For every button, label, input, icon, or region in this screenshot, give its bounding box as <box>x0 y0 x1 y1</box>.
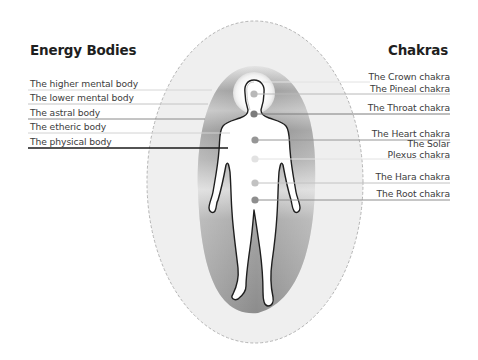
chakra-label: The Throat chakra <box>368 102 450 113</box>
energy-body-label: The higher mental body <box>30 78 138 89</box>
chakra-label: The Root chakra <box>377 188 450 199</box>
chakra-label: The Hara chakra <box>375 171 450 182</box>
chakra-label-line2: Plexus chakra <box>388 149 450 160</box>
energy-bodies-chakras-diagram: Energy Bodies Chakras The higher mental … <box>0 0 478 360</box>
chakra-label: The Pineal chakra <box>370 83 450 94</box>
chakra-label-line1: The Solar <box>407 138 450 149</box>
chakras-heading: Chakras <box>388 42 448 58</box>
energy-body-label: The etheric body <box>30 121 106 132</box>
chakra-dot <box>250 110 257 117</box>
energy-body-label: The astral body <box>30 107 100 118</box>
chakra-dot <box>251 136 258 143</box>
chakra-label: The Crown chakra <box>368 71 450 82</box>
chakra-dot <box>251 155 258 162</box>
chakra-dot <box>251 179 258 186</box>
energy-body-label: The physical body <box>30 136 112 147</box>
chakra-dot <box>250 90 257 97</box>
chakra-dot <box>251 196 258 203</box>
energy-body-label: The lower mental body <box>30 92 134 103</box>
energy-bodies-heading: Energy Bodies <box>30 42 136 58</box>
chakra-label: The Solar Plexus chakra <box>388 138 450 160</box>
